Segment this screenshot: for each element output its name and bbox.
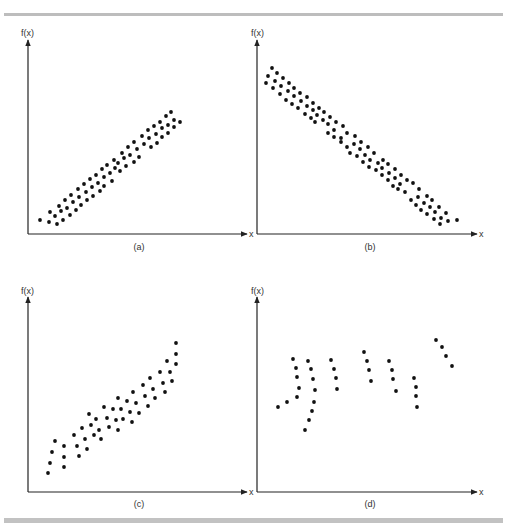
data-point [334, 376, 338, 380]
data-point [170, 379, 174, 383]
data-point [75, 444, 79, 448]
data-point [414, 385, 418, 389]
data-point [367, 368, 371, 372]
data-point [309, 367, 313, 371]
data-point [306, 359, 310, 363]
y-axis-label: f(x) [21, 28, 34, 38]
data-point [414, 203, 418, 207]
data-point [130, 420, 134, 424]
data-point [393, 167, 397, 171]
data-point [74, 208, 78, 212]
data-point [88, 177, 92, 181]
data-point [132, 160, 136, 164]
data-point [107, 425, 111, 429]
data-point [311, 108, 315, 112]
data-point [137, 155, 141, 159]
data-point [428, 205, 432, 209]
data-point [341, 124, 345, 128]
data-point [285, 400, 289, 404]
data-point [446, 219, 450, 223]
data-point [345, 145, 349, 149]
data-point [121, 417, 125, 421]
data-point [110, 179, 114, 183]
data-point [391, 377, 395, 381]
data-point [141, 383, 145, 387]
data-point [278, 92, 282, 96]
data-point [387, 171, 391, 175]
data-point [358, 147, 362, 151]
data-point [438, 222, 442, 226]
data-point [292, 94, 296, 98]
data-point [348, 151, 352, 155]
data-point [305, 95, 309, 99]
data-point [361, 160, 365, 164]
data-point [63, 198, 67, 202]
data-point [334, 120, 338, 124]
data-point [372, 151, 376, 155]
data-point [158, 120, 162, 124]
data-point [433, 210, 437, 214]
data-point [57, 204, 61, 208]
data-point [390, 368, 394, 372]
data-point [125, 399, 129, 403]
data-point [84, 190, 88, 194]
data-point [98, 189, 102, 193]
data-point [166, 123, 170, 127]
data-point [80, 426, 84, 430]
data-point [437, 205, 441, 209]
data-point [305, 104, 309, 108]
data-point [409, 198, 413, 202]
data-point [46, 471, 50, 475]
panel-c: f(x) x (c) [21, 286, 254, 509]
data-point [128, 153, 132, 157]
data-point [292, 86, 296, 90]
data-point [134, 401, 138, 405]
data-point [116, 396, 120, 400]
data-point [264, 81, 268, 85]
x-axis-label: x [479, 229, 484, 239]
data-point [140, 134, 144, 138]
data-point [345, 131, 349, 135]
y-axis-label: f(x) [251, 286, 264, 296]
scatter-figure: f(x) x (a) f(x) x (b) f(x) x (c) f( [0, 0, 513, 530]
data-point [365, 359, 369, 363]
data-point [155, 141, 159, 145]
data-point [76, 187, 80, 191]
data-point [387, 359, 391, 363]
data-point [273, 79, 277, 83]
data-point [160, 126, 164, 130]
data-point [79, 203, 83, 207]
data-point [102, 405, 106, 409]
data-point [178, 120, 182, 124]
data-point [391, 184, 395, 188]
data-point [359, 140, 363, 144]
data-point [143, 394, 147, 398]
data-point [83, 437, 87, 441]
data-point [380, 173, 384, 177]
data-point [153, 396, 157, 400]
data-point [309, 116, 313, 120]
data-point [132, 140, 136, 144]
data-point [425, 194, 429, 198]
data-point [311, 377, 315, 381]
data-point [113, 166, 117, 170]
data-point [368, 158, 372, 162]
data-point [151, 387, 155, 391]
data-point [85, 447, 89, 451]
x-axis-label: x [479, 487, 484, 497]
data-point [172, 125, 176, 129]
data-point [332, 128, 336, 132]
data-point [142, 142, 146, 146]
data-point [386, 178, 390, 182]
data-point [329, 358, 333, 362]
data-point [281, 76, 285, 80]
data-point [381, 158, 385, 162]
data-point [312, 400, 316, 404]
data-point [94, 417, 98, 421]
data-point [276, 405, 280, 409]
data-point [163, 390, 167, 394]
data-point [422, 201, 426, 205]
data-point [116, 428, 120, 432]
data-point [85, 198, 89, 202]
data-point [386, 162, 390, 166]
